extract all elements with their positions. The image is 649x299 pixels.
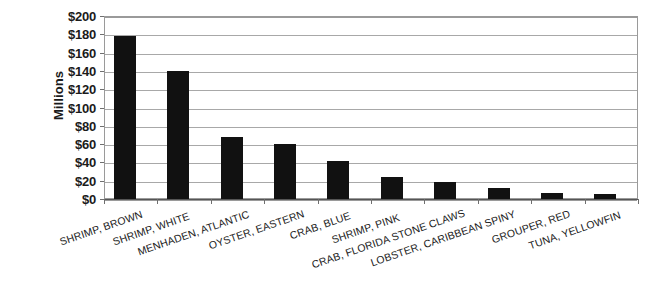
y-axis-tick-label: $60 <box>75 137 96 152</box>
bar <box>434 182 456 199</box>
y-axis-tick-label: $160 <box>68 45 96 60</box>
x-axis-tick-mark <box>424 199 425 204</box>
x-axis-tick-mark <box>104 199 105 204</box>
x-axis-tick-labels: SHRIMP, BROWNSHRIMP, WHITEMENHADEN, ATLA… <box>0 199 649 299</box>
y-axis-tick-mark <box>100 34 104 35</box>
x-axis-tick-mark <box>371 199 372 204</box>
bar <box>167 71 189 199</box>
y-axis-tick-mark <box>100 16 104 17</box>
x-axis-tick-mark <box>478 199 479 204</box>
x-axis-tick-mark <box>531 199 532 204</box>
x-axis-tick-mark <box>264 199 265 204</box>
bar <box>327 161 349 199</box>
y-axis-tick-mark <box>100 162 104 163</box>
y-axis-tick-mark <box>100 89 104 90</box>
y-axis-tick-label: $180 <box>68 27 96 42</box>
y-axis-tick-label: $40 <box>75 155 96 170</box>
bar <box>221 137 243 199</box>
y-axis-tick-mark <box>100 181 104 182</box>
y-axis-tick-mark <box>100 71 104 72</box>
y-axis-tick-mark <box>100 53 104 54</box>
y-axis-tick-mark <box>100 144 104 145</box>
x-axis-tick-mark <box>211 199 212 204</box>
x-axis-tick-mark <box>638 199 639 204</box>
y-axis-tick-mark <box>100 108 104 109</box>
y-axis-tick-mark <box>100 126 104 127</box>
x-axis-tick-mark <box>585 199 586 204</box>
bars-layer <box>104 16 638 199</box>
bar <box>274 144 296 199</box>
y-axis-tick-label: $80 <box>75 118 96 133</box>
y-axis-tick-label: $120 <box>68 82 96 97</box>
bar <box>488 188 510 199</box>
y-axis-tick-label: $140 <box>68 63 96 78</box>
bar-chart: Millions $200$180$160$140$120$100$80$60$… <box>0 0 649 299</box>
bar <box>381 177 403 199</box>
x-axis-tick-mark <box>157 199 158 204</box>
bar <box>114 36 136 199</box>
y-axis-tick-label: $200 <box>68 9 96 24</box>
x-axis-tick-mark <box>318 199 319 204</box>
y-axis-tick-label: $20 <box>75 173 96 188</box>
y-axis-tick-label: $100 <box>68 100 96 115</box>
